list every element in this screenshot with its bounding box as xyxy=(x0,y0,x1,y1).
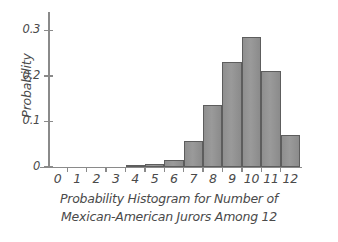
histogram-bars xyxy=(48,12,300,167)
histogram-bar xyxy=(281,135,300,167)
histogram-bar xyxy=(126,165,145,167)
histogram-bar xyxy=(242,37,261,167)
histogram-bar xyxy=(164,160,183,167)
probability-histogram-figure: Probability 00.10.20.3 0123456789101112 … xyxy=(0,0,338,242)
y-tick-label: 0.3 xyxy=(0,22,40,36)
histogram-bar xyxy=(184,141,203,167)
x-tick-label: 12 xyxy=(278,171,302,186)
chart-caption: Probability Histogram for Number of Mexi… xyxy=(0,190,338,226)
histogram-bar xyxy=(222,62,241,167)
histogram-bar xyxy=(145,164,164,167)
caption-line-1: Probability Histogram for Number of xyxy=(0,190,338,208)
y-tick-label: 0 xyxy=(0,159,40,173)
histogram-bar xyxy=(261,71,280,167)
y-tick-label: 0.1 xyxy=(0,113,40,127)
caption-line-2: Mexican-American Jurors Among 12 xyxy=(0,208,338,226)
histogram-bar xyxy=(203,105,222,167)
y-tick-label: 0.2 xyxy=(0,68,40,82)
